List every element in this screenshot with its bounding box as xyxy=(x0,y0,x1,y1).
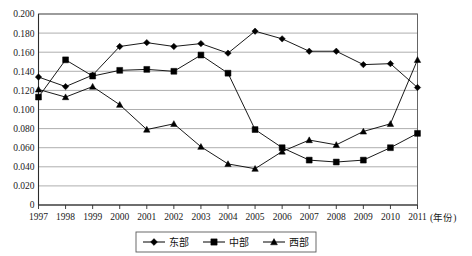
data-point xyxy=(279,36,285,42)
x-tick-label: 2008 xyxy=(327,212,346,222)
x-tick-label: 2000 xyxy=(110,212,129,222)
data-point xyxy=(198,52,204,58)
x-tick-label: 2004 xyxy=(219,212,238,222)
x-tick-label: 2007 xyxy=(300,212,319,222)
y-tick-label: 0.040 xyxy=(13,162,35,172)
data-point xyxy=(63,57,69,63)
data-point xyxy=(198,40,204,46)
x-axis: 1997199819992000200120022003200420052006… xyxy=(29,205,427,222)
y-tick-label: 0.020 xyxy=(13,181,35,191)
data-point xyxy=(306,137,312,143)
data-point xyxy=(144,39,150,45)
x-tick-label: 2002 xyxy=(164,212,183,222)
x-tick-label: 2011 xyxy=(408,212,427,222)
x-tick-label: 1999 xyxy=(83,212,102,222)
y-tick-label: 0.060 xyxy=(13,143,35,153)
data-point xyxy=(35,74,41,80)
x-tick-label: 2009 xyxy=(354,212,373,222)
data-point xyxy=(171,43,177,49)
data-point xyxy=(144,66,150,72)
y-tick-label: 0 xyxy=(30,200,35,210)
data-point xyxy=(225,161,231,167)
data-point xyxy=(333,159,339,165)
data-point xyxy=(360,61,366,67)
data-point xyxy=(387,145,393,151)
y-axis: 00.0200.0400.0600.0800.1000.1200.1400.16… xyxy=(13,9,38,210)
y-tick-label: 0.100 xyxy=(13,105,35,115)
y-tick-label: 0.160 xyxy=(13,48,35,58)
line-chart: 00.0200.0400.0600.0800.1000.1200.1400.16… xyxy=(0,0,472,256)
x-tick-label: 2005 xyxy=(246,212,265,222)
x-tick-label: 1997 xyxy=(29,212,48,222)
x-tick-label: 2006 xyxy=(273,212,292,222)
data-point xyxy=(306,157,312,163)
chart-svg: 00.0200.0400.0600.0800.1000.1200.1400.16… xyxy=(0,0,472,256)
y-tick-label: 0.200 xyxy=(13,9,35,19)
legend-marker-square xyxy=(211,239,217,245)
data-point xyxy=(171,121,177,127)
x-tick-label: 2010 xyxy=(381,212,400,222)
x-axis-caption: (年份) xyxy=(430,212,456,224)
data-point xyxy=(90,73,96,79)
chart-legend: 东部中部西部 xyxy=(136,232,316,252)
y-tick-label: 0.120 xyxy=(13,86,35,96)
series-diamond xyxy=(35,28,420,91)
data-point xyxy=(35,86,41,92)
data-point xyxy=(252,127,258,133)
y-tick-label: 0.180 xyxy=(13,29,35,39)
data-point xyxy=(414,57,420,63)
y-tick-label: 0.140 xyxy=(13,67,35,77)
data-point xyxy=(36,94,42,100)
legend-label: 中部 xyxy=(229,236,249,248)
data-point xyxy=(225,70,231,76)
x-tick-label: 2003 xyxy=(191,212,210,222)
data-point xyxy=(306,48,312,54)
data-point xyxy=(171,68,177,74)
x-tick-label: 2001 xyxy=(137,212,156,222)
data-point xyxy=(89,83,95,89)
data-point xyxy=(387,121,393,127)
data-point xyxy=(415,130,421,136)
y-tick-label: 0.080 xyxy=(13,124,35,134)
series-layer xyxy=(35,28,420,171)
x-tick-label: 1998 xyxy=(56,212,75,222)
legend-label: 西部 xyxy=(289,236,309,248)
data-point xyxy=(117,67,123,73)
data-point xyxy=(62,83,68,89)
data-point xyxy=(360,157,366,163)
legend-label: 东部 xyxy=(169,236,189,248)
data-point xyxy=(333,48,339,54)
data-point xyxy=(117,102,123,108)
